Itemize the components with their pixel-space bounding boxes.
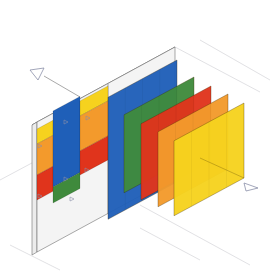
diagram-canvas [0,0,277,274]
blue-block-left [53,96,80,187]
section-line [44,76,80,97]
wall-side-edge [32,122,37,255]
guide-line [200,40,270,80]
guide-line [140,205,250,265]
section-arrow-bottom-right-icon [244,183,258,191]
isometric-layer-diagram [0,0,277,274]
section-arrow-top-left-icon [30,68,44,80]
